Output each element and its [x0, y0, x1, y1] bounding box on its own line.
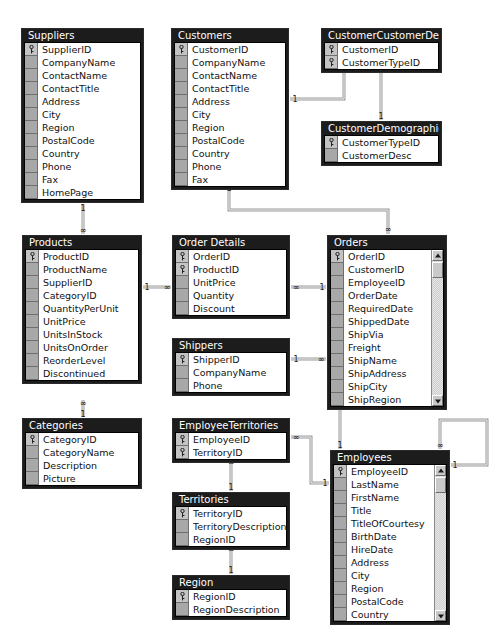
- field-row[interactable]: City: [175, 108, 285, 121]
- field-row[interactable]: ProductName: [26, 263, 138, 276]
- field-selector-gutter[interactable]: [334, 530, 347, 543]
- primary-key-gutter[interactable]: [176, 590, 189, 603]
- field-row[interactable]: RequiredDate: [331, 302, 431, 315]
- field-selector-gutter[interactable]: [331, 289, 344, 302]
- field-row[interactable]: OrderDate: [331, 289, 431, 302]
- field-selector-gutter[interactable]: [25, 134, 38, 147]
- field-row[interactable]: RegionID: [176, 533, 286, 546]
- field-selector-gutter[interactable]: [25, 69, 38, 82]
- field-selector-gutter[interactable]: [25, 186, 38, 199]
- field-selector-gutter[interactable]: [26, 276, 39, 289]
- field-selector-gutter[interactable]: [331, 367, 344, 380]
- field-selector-gutter[interactable]: [26, 341, 39, 354]
- field-row[interactable]: RegionDescription: [176, 603, 286, 616]
- field-row[interactable]: EmployeeID: [334, 465, 434, 478]
- scrollbar-track[interactable]: [435, 493, 446, 610]
- field-row[interactable]: EmployeeID: [176, 433, 286, 446]
- field-row[interactable]: TerritoryDescription: [176, 520, 286, 533]
- field-selector-gutter[interactable]: [25, 108, 38, 121]
- field-row[interactable]: BirthDate: [334, 530, 434, 543]
- relationship-shippers-orders[interactable]: 1∞: [291, 355, 326, 364]
- relationships-canvas[interactable]: 1∞1∞1∞1∞1∞1∞1∞1∞1∞1∞1∞1∞1∞ SuppliersSupp…: [0, 0, 497, 640]
- field-row[interactable]: ShipName: [331, 354, 431, 367]
- field-list-scrollbar-employees[interactable]: [434, 465, 446, 621]
- field-row[interactable]: Fax: [175, 173, 285, 186]
- field-row[interactable]: PostalCode: [25, 134, 140, 147]
- primary-key-gutter[interactable]: [176, 263, 189, 276]
- field-row[interactable]: PostalCode: [334, 595, 434, 608]
- field-selector-gutter[interactable]: [25, 147, 38, 160]
- field-row[interactable]: Country: [25, 147, 140, 160]
- field-selector-gutter[interactable]: [331, 380, 344, 393]
- field-selector-gutter[interactable]: [331, 328, 344, 341]
- scrollbar-track[interactable]: [432, 278, 443, 395]
- field-selector-gutter[interactable]: [175, 147, 188, 160]
- primary-key-gutter[interactable]: [325, 56, 338, 69]
- field-selector-gutter[interactable]: [25, 173, 38, 186]
- field-row[interactable]: Freight: [331, 341, 431, 354]
- primary-key-gutter[interactable]: [325, 136, 338, 149]
- field-selector-gutter[interactable]: [26, 315, 39, 328]
- field-row[interactable]: ShipVia: [331, 328, 431, 341]
- primary-key-gutter[interactable]: [331, 250, 344, 263]
- field-selector-gutter[interactable]: [25, 82, 38, 95]
- field-row[interactable]: UnitsOnOrder: [26, 341, 138, 354]
- field-row[interactable]: City: [334, 569, 434, 582]
- field-selector-gutter[interactable]: [334, 569, 347, 582]
- field-selector-gutter[interactable]: [176, 533, 189, 546]
- table-box-territories[interactable]: TerritoriesTerritoryIDTerritoryDescripti…: [172, 492, 290, 550]
- field-selector-gutter[interactable]: [26, 446, 39, 459]
- field-selector-gutter[interactable]: [176, 289, 189, 302]
- field-selector-gutter[interactable]: [331, 276, 344, 289]
- field-row[interactable]: ShippedDate: [331, 315, 431, 328]
- table-box-shippers[interactable]: ShippersShipperIDCompanyNamePhone: [172, 338, 290, 396]
- field-row[interactable]: Picture: [26, 472, 138, 485]
- relationship-products-orderdetails[interactable]: 1∞: [143, 283, 171, 292]
- table-box-employeeterritories[interactable]: EmployeeTerritoriesEmployeeIDTerritoryID: [172, 418, 290, 463]
- field-selector-gutter[interactable]: [175, 56, 188, 69]
- field-row[interactable]: CompanyName: [175, 56, 285, 69]
- field-row[interactable]: CompanyName: [25, 56, 140, 69]
- field-row[interactable]: HireDate: [334, 543, 434, 556]
- field-selector-gutter[interactable]: [175, 173, 188, 186]
- table-box-suppliers[interactable]: SuppliersSupplierIDCompanyNameContactNam…: [21, 28, 144, 203]
- relationship-categories-products[interactable]: 1∞: [80, 399, 87, 419]
- primary-key-gutter[interactable]: [175, 43, 188, 56]
- field-row[interactable]: ShipCity: [331, 380, 431, 393]
- scroll-down-arrow-icon[interactable]: [435, 610, 446, 621]
- field-row[interactable]: CustomerID: [331, 263, 431, 276]
- field-selector-gutter[interactable]: [25, 121, 38, 134]
- field-row[interactable]: ProductID: [26, 250, 138, 263]
- field-row[interactable]: ProductID: [176, 263, 286, 276]
- field-selector-gutter[interactable]: [26, 472, 39, 485]
- field-row[interactable]: Phone: [25, 160, 140, 173]
- field-selector-gutter[interactable]: [331, 315, 344, 328]
- field-row[interactable]: CustomerTypeID: [325, 136, 438, 149]
- field-row[interactable]: CategoryName: [26, 446, 138, 459]
- table-box-customers[interactable]: CustomersCustomerIDCompanyNameContactNam…: [171, 28, 289, 190]
- field-row[interactable]: Address: [175, 95, 285, 108]
- table-box-customerdemographics[interactable]: CustomerDemographicsCustomerTypeIDCustom…: [321, 121, 442, 166]
- relationship-customers-orders[interactable]: 1∞: [226, 183, 391, 234]
- field-selector-gutter[interactable]: [176, 366, 189, 379]
- field-selector-gutter[interactable]: [331, 393, 344, 406]
- field-selector-gutter[interactable]: [334, 582, 347, 595]
- primary-key-gutter[interactable]: [25, 43, 38, 56]
- field-row[interactable]: UnitPrice: [26, 315, 138, 328]
- field-row[interactable]: ShipAddress: [331, 367, 431, 380]
- field-row[interactable]: RegionID: [176, 590, 286, 603]
- field-row[interactable]: QuantityPerUnit: [26, 302, 138, 315]
- primary-key-gutter[interactable]: [325, 43, 338, 56]
- field-selector-gutter[interactable]: [175, 69, 188, 82]
- field-row[interactable]: FirstName: [334, 491, 434, 504]
- field-row[interactable]: Title: [334, 504, 434, 517]
- field-selector-gutter[interactable]: [334, 543, 347, 556]
- field-selector-gutter[interactable]: [176, 379, 189, 392]
- scroll-up-arrow-icon[interactable]: [435, 465, 446, 476]
- field-selector-gutter[interactable]: [175, 121, 188, 134]
- field-row[interactable]: TerritoryID: [176, 446, 286, 459]
- field-selector-gutter[interactable]: [175, 134, 188, 147]
- field-selector-gutter[interactable]: [331, 354, 344, 367]
- table-box-employees[interactable]: EmployeesEmployeeIDLastNameFirstNameTitl…: [330, 450, 450, 625]
- field-row[interactable]: PostalCode: [175, 134, 285, 147]
